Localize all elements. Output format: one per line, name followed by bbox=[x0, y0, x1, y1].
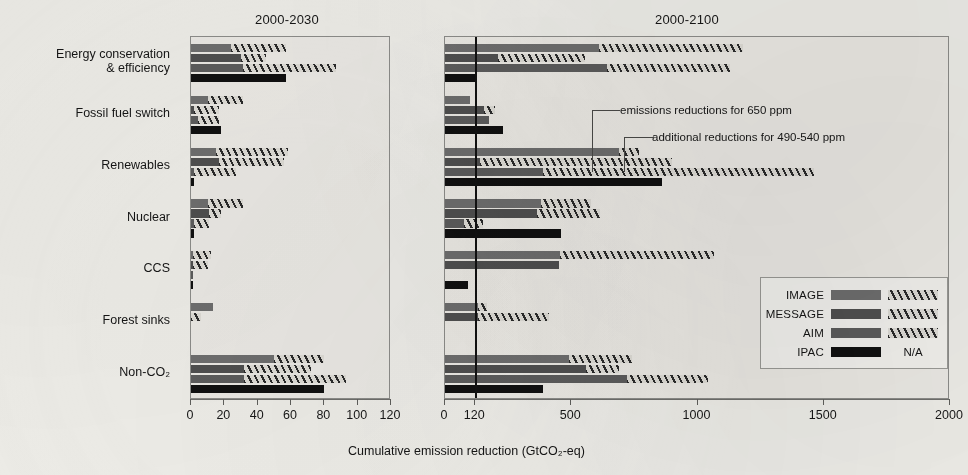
axis-tick-label: 1000 bbox=[683, 408, 711, 422]
bar-message bbox=[445, 54, 585, 62]
category-label: Fossil fuel switch bbox=[0, 106, 180, 120]
bar-segment-additional bbox=[243, 64, 336, 72]
bar-segment-base bbox=[445, 385, 543, 393]
bar-segment-base bbox=[445, 199, 541, 207]
axis-tick bbox=[444, 399, 445, 405]
bar-segment-base bbox=[445, 64, 607, 72]
axis-tick-label: 0 bbox=[187, 408, 194, 422]
bar-ipac bbox=[445, 229, 561, 237]
plot-area-2000-2030 bbox=[190, 36, 390, 399]
bar-segment-base bbox=[191, 209, 209, 217]
panel-title-left: 2000-2030 bbox=[255, 12, 319, 27]
bar-segment-base bbox=[191, 54, 241, 62]
bar-segment-base bbox=[445, 178, 662, 186]
bar-segment-additional bbox=[537, 209, 600, 217]
bar-segment-base bbox=[445, 375, 627, 383]
category-label: Forest sinks bbox=[0, 313, 180, 327]
legend-label: IPAC bbox=[797, 346, 824, 358]
bar-ipac bbox=[445, 178, 662, 186]
bar-ipac bbox=[191, 178, 194, 186]
axis-tick-label: 60 bbox=[283, 408, 297, 422]
bar-segment-additional bbox=[607, 64, 731, 72]
bar-segment-base bbox=[445, 96, 470, 104]
legend-label: AIM bbox=[803, 327, 824, 339]
bar-segment-base bbox=[191, 116, 198, 124]
bar-segment-additional bbox=[244, 365, 311, 373]
bar-segment-additional bbox=[194, 106, 219, 114]
bar-message bbox=[191, 365, 311, 373]
bar-segment-base bbox=[445, 281, 468, 289]
bar-message bbox=[445, 365, 619, 373]
bar-segment-additional bbox=[627, 375, 708, 383]
bar-segment-base bbox=[445, 313, 478, 321]
bar-message bbox=[445, 209, 600, 217]
bar-segment-additional bbox=[484, 106, 495, 114]
leader-line-650ppm bbox=[592, 110, 622, 172]
bar-message bbox=[445, 106, 496, 114]
legend-item-ipac: IPACN/A bbox=[761, 343, 947, 360]
bar-segment-additional bbox=[208, 96, 243, 104]
bar-message bbox=[191, 209, 221, 217]
legend-item-image: IMAGE bbox=[761, 286, 947, 303]
bar-segment-additional bbox=[216, 148, 288, 156]
axis-tick bbox=[323, 399, 324, 405]
legend-swatch-additional bbox=[888, 309, 938, 319]
bar-message bbox=[191, 158, 284, 166]
bar-image bbox=[191, 44, 286, 52]
bar-segment-additional bbox=[569, 355, 632, 363]
category-label: Nuclear bbox=[0, 210, 180, 224]
bar-segment-additional bbox=[191, 313, 201, 321]
bar-ipac bbox=[191, 126, 221, 134]
bar-segment-base bbox=[191, 303, 213, 311]
bar-segment-additional bbox=[194, 168, 236, 176]
bar-image bbox=[191, 303, 213, 311]
bar-aim bbox=[445, 64, 730, 72]
axis-tick-label: 2000 bbox=[935, 408, 963, 422]
bar-segment-additional bbox=[464, 219, 483, 227]
bar-segment-base bbox=[191, 229, 194, 237]
legend-item-aim: AIM bbox=[761, 324, 947, 341]
bar-image bbox=[191, 355, 324, 363]
bar-segment-base bbox=[445, 355, 569, 363]
bar-segment-base bbox=[191, 126, 221, 134]
bar-aim bbox=[191, 375, 346, 383]
annotation-490-540ppm: additional reductions for 490-540 ppm bbox=[652, 131, 845, 143]
axis-tick-label: 20 bbox=[216, 408, 230, 422]
bar-segment-base bbox=[191, 281, 193, 289]
bar-segment-additional bbox=[219, 158, 284, 166]
legend-swatch-additional bbox=[888, 328, 938, 338]
bar-segment-base bbox=[191, 271, 193, 279]
bar-message bbox=[445, 261, 559, 269]
bar-segment-additional bbox=[208, 199, 243, 207]
bar-segment-base bbox=[191, 365, 244, 373]
bar-segment-additional bbox=[194, 219, 209, 227]
bar-aim bbox=[191, 116, 219, 124]
bar-message bbox=[191, 313, 201, 321]
legend: IMAGEMESSAGEAIMIPACN/A bbox=[760, 277, 948, 369]
axis-tick bbox=[290, 399, 291, 405]
bar-ipac bbox=[445, 74, 477, 82]
bar-image bbox=[445, 44, 743, 52]
reference-line-120 bbox=[475, 37, 477, 399]
bar-segment-additional bbox=[478, 303, 487, 311]
bar-ipac bbox=[191, 229, 194, 237]
axis-tick-label: 80 bbox=[316, 408, 330, 422]
bar-segment-base bbox=[445, 116, 489, 124]
axis-tick bbox=[257, 399, 258, 405]
legend-swatch-base bbox=[831, 347, 881, 357]
bar-segment-base bbox=[445, 219, 464, 227]
legend-label: IMAGE bbox=[786, 289, 824, 301]
bar-aim bbox=[445, 375, 708, 383]
bar-aim bbox=[191, 271, 193, 279]
axis-tick bbox=[474, 399, 475, 405]
category-label: CCS bbox=[0, 261, 180, 275]
bar-image bbox=[191, 96, 243, 104]
legend-item-message: MESSAGE bbox=[761, 305, 947, 322]
bar-ipac bbox=[445, 281, 468, 289]
bar-segment-base bbox=[445, 261, 559, 269]
bar-aim bbox=[191, 64, 336, 72]
bar-segment-additional bbox=[543, 168, 813, 176]
annotation-650ppm: emissions reductions for 650 ppm bbox=[620, 104, 792, 116]
axis-tick-label: 1500 bbox=[809, 408, 837, 422]
axis-tick-label: 100 bbox=[346, 408, 367, 422]
